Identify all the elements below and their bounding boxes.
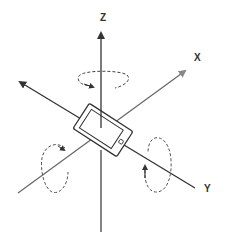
y-axis-label: Y <box>204 183 211 194</box>
phone-icon <box>73 103 133 156</box>
rotation-z-icon <box>78 71 128 88</box>
rotation-x-icon <box>41 145 68 193</box>
z-axis-label: Z <box>100 12 106 23</box>
orientation-diagram <box>0 0 226 249</box>
x-axis-label: X <box>194 52 201 63</box>
